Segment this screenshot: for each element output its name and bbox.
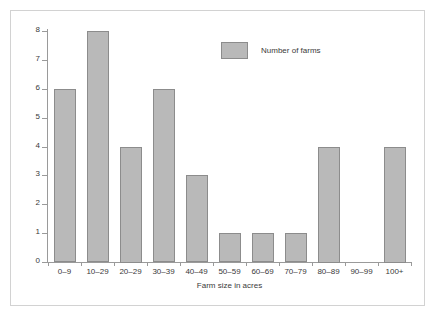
y-axis-tick-label: 6 bbox=[6, 84, 40, 94]
y-axis-tick bbox=[42, 89, 48, 90]
y-axis-tick-label-text: 2 bbox=[10, 199, 40, 207]
bar bbox=[87, 31, 109, 262]
bar bbox=[384, 147, 406, 263]
bar bbox=[219, 233, 241, 262]
x-axis-tick bbox=[279, 262, 280, 266]
y-axis-tick-label: 3 bbox=[6, 170, 40, 180]
legend-label-number-of-farms: Number of farms bbox=[261, 46, 321, 55]
x-axis-tick bbox=[213, 262, 214, 266]
x-axis-tick bbox=[246, 262, 247, 266]
x-axis-tick bbox=[312, 262, 313, 266]
y-axis-tick bbox=[42, 204, 48, 205]
x-axis-tick bbox=[345, 262, 346, 266]
y-axis-tick-label-text: 1 bbox=[10, 228, 40, 236]
chart-legend: Number of farms bbox=[221, 42, 321, 59]
x-axis-tick bbox=[147, 262, 148, 266]
x-axis-tick bbox=[81, 262, 82, 266]
x-axis-title: Farm size in acres bbox=[48, 281, 411, 290]
y-axis-tick-label: 4 bbox=[6, 142, 40, 152]
bar-chart-figure: 012345678 0–910–2920–2930–3940–4950–5960… bbox=[0, 0, 437, 319]
bar bbox=[285, 233, 307, 262]
x-axis-line bbox=[47, 262, 412, 263]
y-axis-tick bbox=[42, 31, 48, 32]
y-axis-tick-label-text: 7 bbox=[10, 55, 40, 63]
y-axis-tick-label: 7 bbox=[6, 55, 40, 65]
y-axis-tick bbox=[42, 147, 48, 148]
y-axis-tick-label-text: 5 bbox=[10, 113, 40, 121]
y-axis-tick-label-text: 8 bbox=[10, 26, 40, 34]
x-axis-tick bbox=[378, 262, 379, 266]
y-axis-tick-label: 5 bbox=[6, 113, 40, 123]
y-axis-tick bbox=[42, 233, 48, 234]
y-axis-tick bbox=[42, 60, 48, 61]
y-axis-tick-label: 0 bbox=[6, 257, 40, 267]
bar bbox=[318, 147, 340, 263]
bar bbox=[252, 233, 274, 262]
y-axis-tick-label-text: 0 bbox=[10, 257, 40, 265]
y-axis-tick-label-text: 3 bbox=[10, 170, 40, 178]
y-axis-tick-label: 8 bbox=[6, 26, 40, 36]
y-axis-tick-label: 1 bbox=[6, 228, 40, 238]
y-axis-tick-label: 2 bbox=[6, 199, 40, 209]
y-axis-tick-label-text: 6 bbox=[10, 84, 40, 92]
x-axis-tick bbox=[48, 262, 49, 266]
x-axis-tick bbox=[114, 262, 115, 266]
bar bbox=[120, 147, 142, 263]
legend-swatch-number-of-farms bbox=[221, 42, 248, 59]
x-axis-tick-label: 100+ bbox=[371, 268, 419, 276]
x-axis-tick bbox=[411, 262, 412, 266]
y-axis-tick bbox=[42, 175, 48, 176]
bar bbox=[186, 175, 208, 262]
y-axis-tick bbox=[42, 118, 48, 119]
y-axis-tick-label-text: 4 bbox=[10, 142, 40, 150]
x-axis-tick bbox=[180, 262, 181, 266]
bar bbox=[54, 89, 76, 262]
bar bbox=[153, 89, 175, 262]
